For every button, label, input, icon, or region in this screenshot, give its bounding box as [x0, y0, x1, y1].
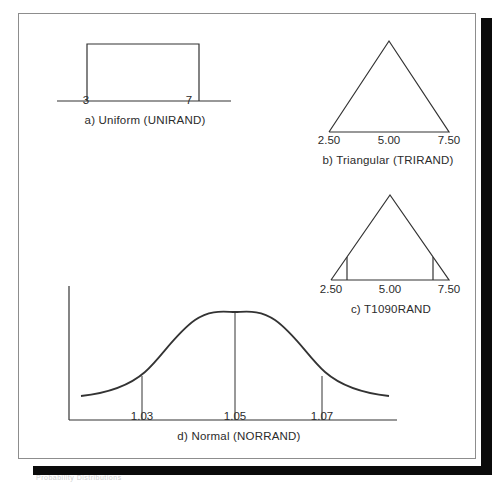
triangular-density-shape	[329, 41, 449, 132]
t1090-tick-2: 7.50	[438, 283, 460, 295]
caption-triangular: b) Triangular (TRIRAND)	[283, 154, 493, 166]
normal-tick-row: 1.03 1.05 1.07	[69, 410, 409, 426]
normal-tick-1: 1.05	[224, 410, 246, 422]
uniform-tick-min: 3	[71, 94, 101, 106]
caption-uniform: a) Uniform (UNIRAND)	[45, 114, 245, 126]
triangular-tick-1: 5.00	[378, 134, 400, 146]
uniform-plot	[49, 36, 239, 126]
normal-tick-2: 1.07	[311, 410, 333, 422]
panel-normal	[49, 276, 419, 431]
figure-plate: 3 7 a) Uniform (UNIRAND) 2.50 5.00 7.50 …	[18, 13, 476, 459]
triangular-plot	[303, 26, 473, 144]
triangular-tick-2: 7.50	[438, 134, 460, 146]
t1090-density-shape	[331, 195, 449, 280]
uniform-density-shape	[87, 44, 199, 101]
figure-footer-note: Probability Distributions	[36, 474, 122, 482]
uniform-tick-max: 7	[174, 94, 204, 106]
normal-plot	[49, 276, 419, 431]
plate-shadow-right	[481, 18, 492, 468]
caption-normal: d) Normal (NORRAND)	[129, 430, 349, 442]
figure-root: 3 7 a) Uniform (UNIRAND) 2.50 5.00 7.50 …	[0, 0, 498, 482]
panel-triangular	[303, 26, 473, 144]
triangular-tick-row: 2.50 5.00 7.50	[283, 134, 493, 150]
normal-tick-0: 1.03	[131, 410, 153, 422]
panel-uniform	[49, 36, 239, 126]
triangular-tick-0: 2.50	[318, 134, 340, 146]
